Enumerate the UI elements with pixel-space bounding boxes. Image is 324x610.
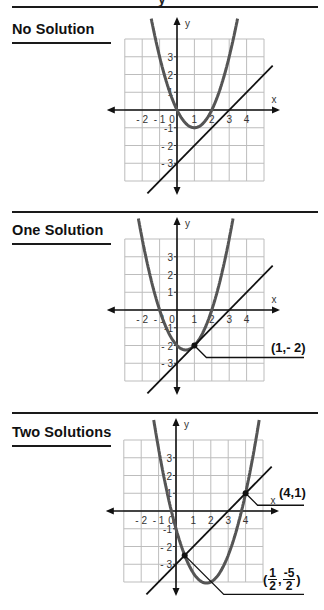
arrow-up-icon xyxy=(173,418,180,426)
callout-label-half-neg5half: ( 1 2 , -5 2 ) xyxy=(263,567,301,592)
x-tick-label: - 2 xyxy=(135,515,147,526)
paren-close: ) xyxy=(296,572,300,587)
graph-two-solutions: yx- 2- 101234321-1- 2- 3 xyxy=(0,0,324,610)
x-tick-label: 1 xyxy=(191,515,197,526)
arrow-left-icon xyxy=(106,508,114,515)
comma: , xyxy=(278,572,282,587)
y-axis-label: y xyxy=(184,419,189,430)
x-tick-label: 4 xyxy=(243,515,249,526)
frac-den: 2 xyxy=(269,580,276,592)
paren-open: ( xyxy=(263,572,267,587)
fraction-neg5-2: -5 2 xyxy=(283,567,296,592)
x-tick-label: 2 xyxy=(208,515,214,526)
x-axis-label: x xyxy=(271,495,276,506)
y-tick-label: 2 xyxy=(166,471,172,482)
arrow-down-icon xyxy=(173,588,180,596)
x-tick-label: 3 xyxy=(225,515,231,526)
y-tick-label: 3 xyxy=(166,453,172,464)
fraction-1-2: 1 2 xyxy=(268,567,277,592)
frac-den: 2 xyxy=(286,580,293,592)
y-tick-label: -1 xyxy=(163,524,172,535)
arrow-right-icon xyxy=(271,508,279,515)
y-tick-label: - 2 xyxy=(160,542,172,553)
callout-label-4-1: (4,1) xyxy=(279,485,306,500)
